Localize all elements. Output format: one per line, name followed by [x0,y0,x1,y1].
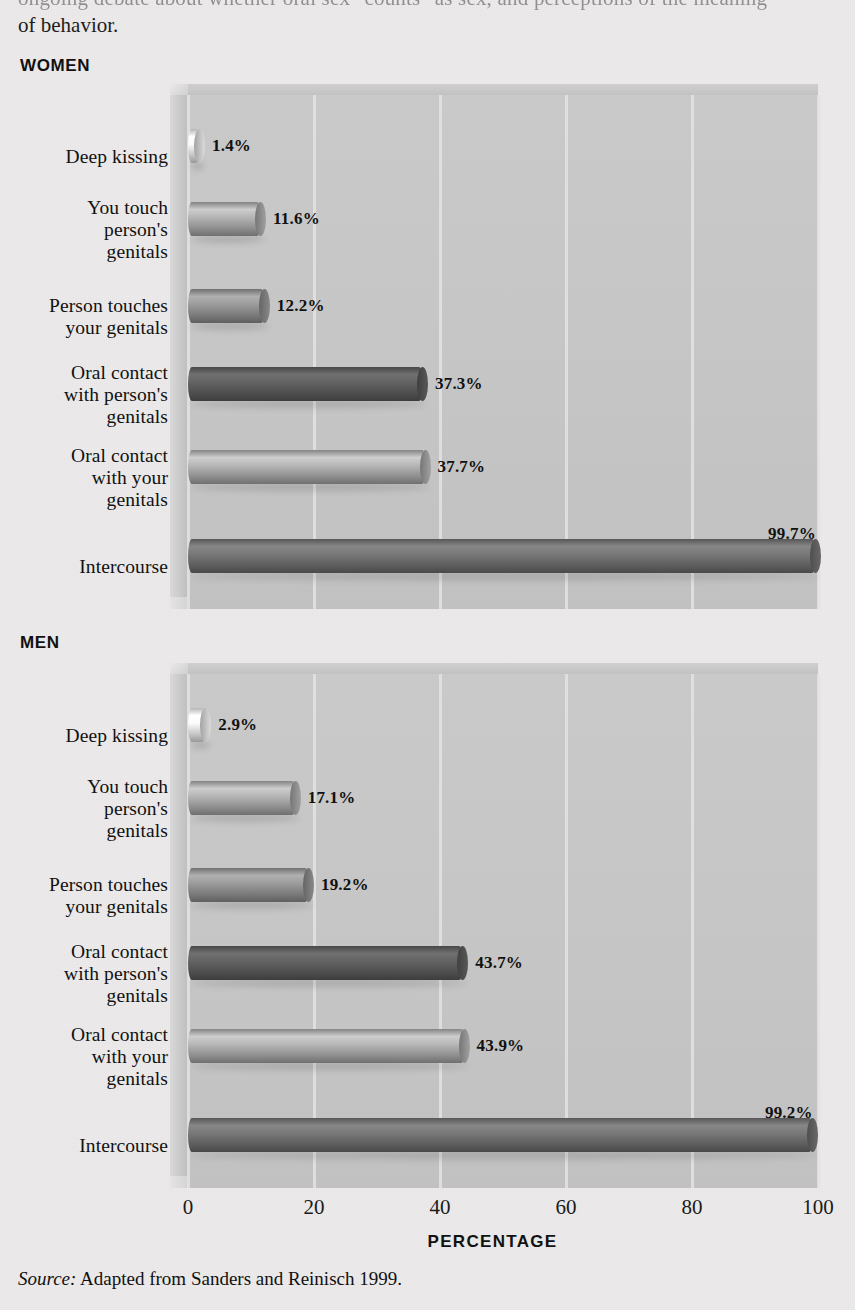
bar-body [188,1029,465,1063]
bar-1 [188,781,296,815]
category-label-4: Oral contactwith yourgenitals [0,445,168,511]
category-label-line: genitals [0,406,168,428]
bar-2 [188,289,265,323]
bar-shadow [191,235,265,243]
plot-area-women: 1.4%11.6%12.2%37.3%37.7%99.7% [188,95,818,609]
gridline-100 [817,674,820,1188]
bar-value-label-1: 17.1% [308,788,356,808]
bar-0 [188,708,206,742]
bar-shadow [191,1151,817,1159]
category-label-0: Deep kissing [0,725,168,747]
bar-end-cap [420,450,431,484]
bar-end-cap [194,129,205,163]
gridline-80 [691,95,694,609]
bar-end-cap [200,708,211,742]
bar-body [188,868,309,902]
bar-5 [188,539,816,573]
category-label-2: Person touchesyour genitals [0,874,168,918]
bar-shadow [191,483,430,491]
bar-body [188,1118,813,1152]
figure-page: ongoing debate about whether oral sex "c… [0,0,855,1310]
category-label-5: Intercourse [0,1135,168,1157]
category-label-line: with person's [0,384,168,406]
bar-3 [188,367,423,401]
bar-4 [188,450,426,484]
bar-body [188,539,816,573]
bar-1 [188,202,261,236]
category-label-line: Person touches [0,874,168,896]
category-label-line: person's [0,219,168,241]
bar-shadow [191,322,269,330]
category-label-line: with person's [0,963,168,985]
category-label-line: Oral contact [0,362,168,384]
category-labels-men: Deep kissingYou touchperson'sgenitalsPer… [0,663,168,1188]
bar-body [188,946,463,980]
section-title-men: MEN [20,633,60,653]
category-label-1: You touchperson'sgenitals [0,197,168,263]
plot-men: 2.9%17.1%19.2%43.7%43.9%99.2% [170,663,818,1188]
bar-value-label-0: 2.9% [218,715,257,735]
bar-shadow [191,979,467,987]
gridline-100 [817,95,820,609]
category-label-0: Deep kissing [0,146,168,168]
source-text: Adapted from Sanders and Reinisch 1999. [80,1268,402,1289]
bar-value-label-2: 12.2% [277,296,325,316]
category-label-line: with your [0,1046,168,1068]
gridline-0 [187,95,190,609]
category-label-line: Person touches [0,295,168,317]
bar-end-cap [457,946,468,980]
category-label-line: genitals [0,985,168,1007]
category-label-3: Oral contactwith person'sgenitals [0,362,168,428]
bar-end-cap [290,781,301,815]
category-labels-women: Deep kissingYou touchperson'sgenitalsPer… [0,84,168,609]
bar-shadow [191,741,210,749]
bar-end-cap [459,1029,470,1063]
bar-end-cap [303,868,314,902]
category-label-5: Intercourse [0,556,168,578]
gridline-20 [313,674,316,1188]
x-tick-60: 60 [556,1195,577,1220]
category-label-2: Person touchesyour genitals [0,295,168,339]
gridline-20 [313,95,316,609]
category-label-line: You touch [0,776,168,798]
source-note: Source: Adapted from Sanders and Reinisc… [18,1268,402,1290]
category-label-line: person's [0,798,168,820]
bar-value-label-4: 43.9% [477,1036,525,1056]
category-label-3: Oral contactwith person'sgenitals [0,941,168,1007]
category-label-line: with your [0,467,168,489]
bar-value-label-5: 99.2% [765,1103,813,1123]
x-tick-80: 80 [682,1195,703,1220]
category-label-line: Deep kissing [0,146,168,168]
chart-men: Deep kissingYou touchperson'sgenitalsPer… [0,663,855,1188]
bar-5 [188,1118,813,1152]
gridline-60 [565,674,568,1188]
x-axis-title: PERCENTAGE [0,1232,855,1252]
x-tick-100: 100 [802,1195,834,1220]
bar-value-label-0: 1.4% [212,136,251,156]
x-tick-0: 0 [183,1195,194,1220]
bar-value-label-5: 99.7% [768,524,816,544]
bar-value-label-1: 11.6% [273,209,320,229]
intro-line-partial: ongoing debate about whether oral sex "c… [18,0,838,11]
category-label-line: your genitals [0,317,168,339]
category-label-line: You touch [0,197,168,219]
intro-line-2: of behavior. [18,13,838,34]
bar-shadow [191,162,204,170]
category-label-line: Intercourse [0,1135,168,1157]
chart-women: Deep kissingYou touchperson'sgenitalsPer… [0,84,855,609]
bar-end-cap [417,367,428,401]
bar-value-label-3: 43.7% [475,953,523,973]
category-label-line: genitals [0,489,168,511]
bar-value-label-2: 19.2% [321,875,369,895]
category-label-line: Oral contact [0,445,168,467]
bar-body [188,202,261,236]
source-prefix: Source: [18,1268,76,1289]
plot-area-men: 2.9%17.1%19.2%43.7%43.9%99.2% [188,674,818,1188]
category-label-line: Oral contact [0,1024,168,1046]
bar-end-cap [807,1118,818,1152]
category-label-line: genitals [0,1068,168,1090]
intro-paragraph: ongoing debate about whether oral sex "c… [18,0,838,34]
bar-3 [188,946,463,980]
bar-body [188,450,426,484]
bar-shadow [191,901,313,909]
